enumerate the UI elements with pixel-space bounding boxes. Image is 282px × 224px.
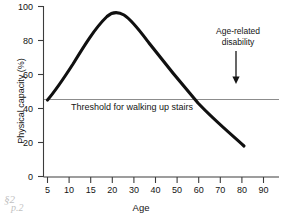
x-tick-label-15: 15 [79, 185, 103, 195]
marginalia-line-2: p.2 [11, 202, 24, 213]
y-axis-title: Physical capacity (%) [16, 36, 26, 166]
annotation-age-related-disability: Age-related disability [196, 26, 280, 47]
annotation-line-1: Age-related [196, 26, 280, 37]
y-tick-label-0: 0 [7, 172, 33, 182]
x-tick-label-50: 50 [165, 185, 189, 195]
x-tick-label-70: 70 [208, 185, 232, 195]
threshold-line-label: Threshold for walking up stairs [71, 102, 193, 112]
x-tick-label-10: 10 [57, 185, 81, 195]
x-tick-label-30: 30 [122, 185, 146, 195]
handwritten-marginalia: §2 p.2 [4, 193, 44, 221]
x-tick-label-60: 60 [187, 185, 211, 195]
annotation-arrow [232, 51, 239, 84]
chart-figure: 0 20 40 60 80 100 5 10 15 20 30 40 50 60… [0, 0, 282, 224]
x-tick-label-80: 80 [230, 185, 254, 195]
x-axis-ticks [48, 177, 264, 183]
y-tick-label-100: 100 [7, 2, 33, 12]
x-tick-label-90: 90 [252, 185, 276, 195]
x-tick-label-40: 40 [144, 185, 168, 195]
annotation-line-2: disability [196, 37, 280, 48]
x-tick-label-20: 20 [100, 185, 124, 195]
y-axis-ticks [38, 7, 44, 177]
